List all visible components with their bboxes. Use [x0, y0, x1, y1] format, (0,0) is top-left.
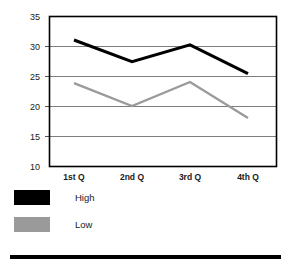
plot-frame	[50, 17, 277, 167]
series-line-high	[74, 40, 248, 74]
legend-swatch-low-icon	[14, 217, 50, 232]
y-tick-label: 10	[30, 162, 40, 172]
y-tick-label: 15	[30, 132, 40, 142]
legend-label-low: Low	[75, 219, 92, 230]
line-chart-widget: 35 30 25 20 15 10	[0, 0, 291, 265]
series-line-low	[74, 82, 248, 118]
legend-label-high: High	[75, 192, 95, 203]
category-label: 2nd Q	[120, 172, 144, 182]
bottom-divider	[10, 255, 281, 259]
y-axis-tick-labels: 35 30 25 20 15 10	[30, 12, 40, 172]
x-axis-category-labels: 1st Q 2nd Q 3rd Q 4th Q	[63, 172, 259, 182]
category-label: 1st Q	[63, 172, 85, 182]
legend-item-low: Low	[14, 216, 92, 232]
y-axis-ticks	[45, 47, 49, 137]
category-label: 4th Q	[237, 172, 259, 182]
category-label: 3rd Q	[179, 172, 202, 182]
legend-swatch-high-icon	[14, 190, 50, 205]
chart-legend: High Low	[0, 186, 291, 244]
y-tick-label: 35	[30, 12, 40, 22]
y-tick-label: 20	[30, 102, 40, 112]
plot-area: 35 30 25 20 15 10	[0, 0, 291, 185]
chart-svg: 35 30 25 20 15 10	[0, 0, 291, 185]
y-tick-label: 25	[30, 72, 40, 82]
gridlines	[49, 47, 277, 137]
y-tick-label: 30	[30, 42, 40, 52]
legend-item-high: High	[14, 189, 95, 205]
